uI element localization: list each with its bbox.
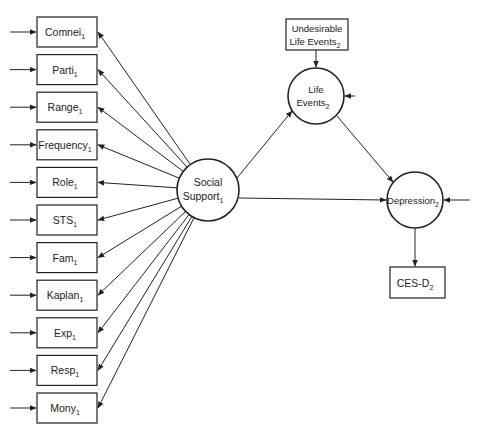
- loading-arrow-role: [98, 182, 177, 187]
- loading-arrow-parti: [98, 70, 187, 168]
- svg-text:Social: Social: [194, 176, 223, 188]
- loading-arrow-mony: [98, 218, 194, 408]
- svg-text:Resp1: Resp1: [51, 364, 80, 378]
- loading-arrow-frequency: [98, 145, 179, 178]
- svg-text:Mony1: Mony1: [50, 402, 80, 416]
- indicator-box-sts: STS1: [37, 205, 97, 235]
- arrow-social-support-to-depression: [239, 198, 386, 200]
- indicator-box-exp: Exp1: [37, 318, 97, 348]
- undesirable-life-events-box: Undesirable Life Events2: [286, 19, 348, 50]
- indicator-box-fam: Fam1: [37, 243, 97, 273]
- svg-text:Comnei1: Comnei1: [45, 26, 85, 40]
- arrow-life-events-to-depression: [337, 116, 393, 182]
- svg-text:CES-D2: CES-D2: [397, 277, 434, 291]
- svg-text:Support1: Support1: [183, 190, 224, 204]
- indicator-box-resp: Resp1: [37, 355, 97, 385]
- loading-arrow-sts: [98, 198, 178, 220]
- loading-arrow-comnei: [98, 32, 190, 165]
- svg-text:Kaplan1: Kaplan1: [47, 289, 84, 303]
- indicator-box-role: Role1: [37, 167, 97, 197]
- indicator-box-comnei: Comnei1: [37, 17, 97, 47]
- indicator-box-parti: Parti1: [37, 55, 97, 85]
- loading-arrow-exp: [98, 215, 189, 333]
- loading-arrow-kaplan: [98, 211, 186, 295]
- indicator-box-kaplan: Kaplan1: [37, 280, 97, 310]
- depression-node: Depression2: [387, 172, 443, 228]
- path-diagram: Comnei1Parti1Range1Frequency1Role1STS1Fa…: [0, 0, 478, 432]
- svg-text:Range1: Range1: [48, 101, 83, 115]
- social-support-node: Social Support1: [177, 159, 239, 221]
- cesd-box: CES-D2: [390, 267, 445, 298]
- indicator-box-mony: Mony1: [37, 393, 97, 423]
- arrow-social-support-to-life-events: [237, 111, 292, 178]
- svg-text:Undesirable: Undesirable: [292, 23, 343, 34]
- life-events-node: Life Events2: [288, 68, 344, 124]
- loading-arrow-fam: [98, 206, 182, 257]
- indicator-box-frequency: Frequency1: [37, 130, 97, 160]
- loading-arrow-resp: [98, 216, 192, 370]
- svg-text:Frequency1: Frequency1: [38, 139, 92, 153]
- svg-text:Life: Life: [308, 84, 323, 95]
- indicator-box-range: Range1: [37, 92, 97, 122]
